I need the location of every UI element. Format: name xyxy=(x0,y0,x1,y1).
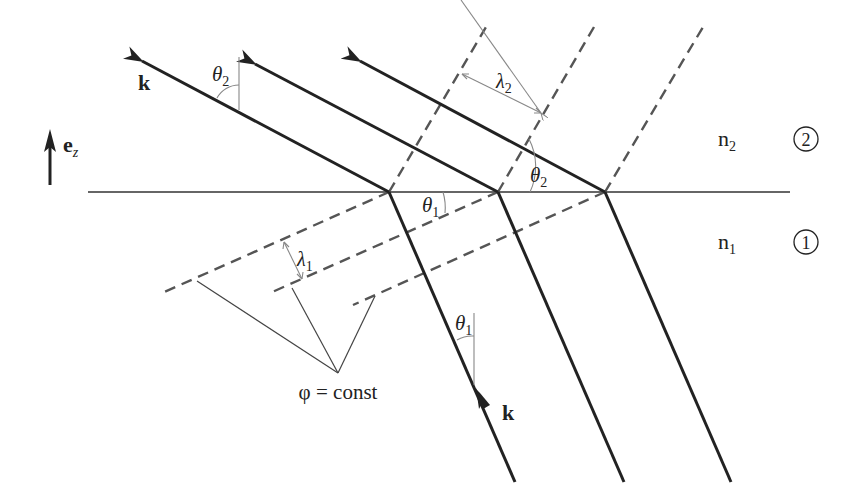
phase-leaders xyxy=(197,281,375,373)
ez-label: ez xyxy=(63,132,79,160)
rays-medium-1 xyxy=(389,192,731,482)
medium-1-marker: 1 xyxy=(802,233,811,253)
ray-incident xyxy=(389,192,515,482)
lambda2-dimension xyxy=(461,0,541,113)
n1-label: n1 xyxy=(718,229,736,257)
n2-label: n2 xyxy=(718,126,736,154)
k-label-upper: k xyxy=(138,70,151,95)
theta1-interface-label: θ1 xyxy=(422,193,439,220)
wavefronts-medium-2 xyxy=(389,27,703,192)
wavefront-line xyxy=(605,27,703,192)
wavefront-line xyxy=(498,27,594,192)
wavefront-line xyxy=(270,192,498,293)
ray-refracted xyxy=(142,61,389,192)
medium-2-marker: 2 xyxy=(802,130,811,150)
ray-incident xyxy=(605,192,731,482)
ray-incident xyxy=(498,192,624,482)
wavefront-line xyxy=(162,192,389,293)
theta2-top-label: θ2 xyxy=(212,62,229,89)
refraction-diagram: k k ez θ2 θ2 θ1 θ1 λ2 λ1 n2 n1 2 1 φ = c… xyxy=(0,0,860,503)
ray-refracted xyxy=(360,61,605,192)
ray-refracted xyxy=(255,64,498,192)
wavefront-line xyxy=(389,27,486,192)
theta1-lower-label: θ1 xyxy=(455,311,472,338)
k-label-lower: k xyxy=(502,400,515,425)
theta1-interface-arc xyxy=(443,192,445,213)
theta2-interface-label: θ2 xyxy=(530,163,547,190)
wavefront-line xyxy=(353,192,605,305)
lambda1-label: λ1 xyxy=(296,248,313,274)
phase-const-label: φ = const xyxy=(299,380,378,404)
